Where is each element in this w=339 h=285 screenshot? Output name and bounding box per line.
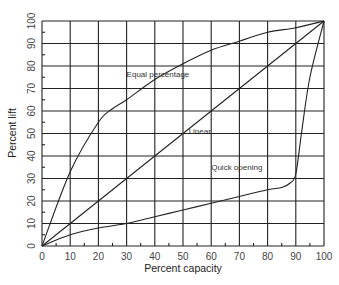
x-tick-label: 60 [206, 251, 218, 262]
y-tick-label: 90 [26, 38, 37, 50]
x-tick-label: 50 [177, 251, 189, 262]
x-axis-label: Percent capacity [144, 262, 222, 274]
valve-characteristic-chart: 0102030405060708090100 01020304050607080… [0, 0, 339, 285]
annotation-equal-percentage: Equal percentage [127, 70, 190, 79]
y-tick-label: 60 [26, 105, 37, 117]
y-tick-label: 40 [26, 150, 37, 162]
y-tick-label: 100 [26, 12, 37, 29]
y-axis-ticks: 0102030405060708090100 [26, 12, 37, 249]
y-tick-label: 10 [26, 218, 37, 230]
y-tick-label: 0 [26, 243, 37, 249]
x-tick-label: 40 [149, 251, 161, 262]
x-tick-label: 90 [290, 251, 302, 262]
x-tick-label: 100 [316, 251, 333, 262]
y-tick-label: 20 [26, 195, 37, 207]
annotation-quick-opening: Quick opening [211, 163, 262, 172]
y-axis-label: Percent lift [6, 108, 18, 158]
y-tick-label: 80 [26, 60, 37, 72]
x-tick-label: 10 [65, 251, 77, 262]
x-axis-ticks: 0102030405060708090100 [39, 251, 333, 262]
y-tick-label: 30 [26, 173, 37, 185]
y-tick-label: 50 [26, 128, 37, 140]
y-tick-label: 70 [26, 83, 37, 95]
x-tick-label: 20 [93, 251, 105, 262]
x-tick-label: 0 [39, 251, 45, 262]
annotation-linear: Linear [189, 127, 212, 136]
x-tick-label: 80 [262, 251, 274, 262]
x-tick-label: 70 [234, 251, 246, 262]
x-tick-label: 30 [121, 251, 133, 262]
